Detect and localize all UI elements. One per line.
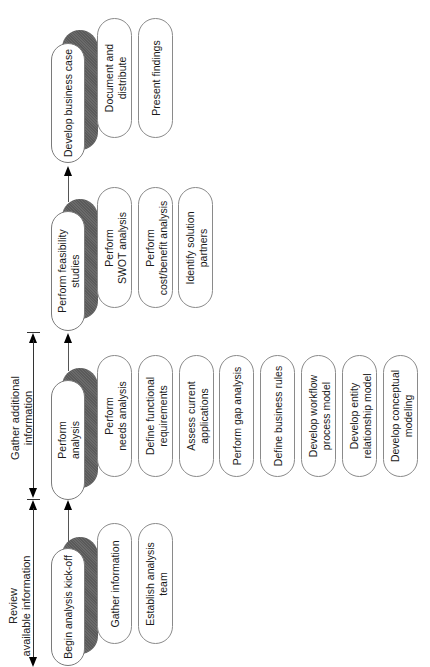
task-perform-cost-benefit-analysis[interactable]: Perform cost/benefit analysis (138, 187, 173, 308)
task-define-business-rules[interactable]: Define business rules (260, 355, 295, 477)
task-label: Develop entity relationship model (347, 373, 372, 458)
flow-line-kickoff-to-analysis (68, 508, 69, 542)
phase-node[interactable]: Perform analysis (51, 380, 85, 500)
span-label: Gather additional information (9, 376, 35, 460)
task-perform-swot-analysis[interactable]: Perform SWOT analysis (97, 187, 132, 308)
phase-node[interactable]: Perform feasibility studies (51, 211, 85, 331)
flow-line-feasibility-to-business-case (68, 174, 69, 202)
task-label: Perform needs analysis (102, 381, 127, 450)
task-label: Document and distribute (102, 44, 127, 112)
flow-arrow-icon (64, 500, 72, 510)
task-label: Assess current applications (184, 381, 209, 450)
arrow-down-icon (29, 488, 37, 498)
task-develop-conceptual-modeling[interactable]: Develop conceptual modeling (383, 355, 418, 477)
task-perform-gap-analysis[interactable]: Perform gap analysis (219, 355, 254, 477)
task-gather-information[interactable]: Gather information (97, 523, 132, 644)
flow-arrow-icon (64, 166, 72, 176)
task-document-and-distribute[interactable]: Document and distribute (97, 18, 132, 138)
task-label: Present findings (149, 40, 162, 115)
task-label: Develop conceptual modeling (388, 370, 413, 462)
task-identify-solution-partners[interactable]: Identify solution partners (178, 187, 213, 308)
task-label: Perform gap analysis (230, 367, 243, 466)
task-perform-needs-analysis[interactable]: Perform needs analysis (97, 355, 132, 477)
phase-label: Perform feasibility studies (56, 229, 81, 312)
flow-line-analysis-to-feasibility (68, 341, 69, 371)
task-label: Establish analysis team (143, 542, 168, 625)
task-label: Define functional requirements (143, 377, 168, 455)
phase-label: Perform analysis (56, 421, 81, 459)
task-develop-entity-relationship-model[interactable]: Develop entity relationship model (342, 355, 377, 477)
span-label: Review available information (7, 556, 33, 657)
task-assess-current-applications[interactable]: Assess current applications (179, 355, 214, 477)
task-label: Identify solution partners (183, 211, 208, 284)
phase-label: Begin analysis kick-off (62, 555, 75, 659)
task-present-findings[interactable]: Present findings (138, 18, 173, 138)
task-develop-workflow-process-model[interactable]: Develop workflow process model (301, 355, 336, 477)
task-establish-analysis-team[interactable]: Establish analysis team (138, 523, 173, 644)
task-label: Define business rules (271, 366, 284, 466)
task-label: Perform SWOT analysis (102, 211, 127, 283)
span-line (33, 508, 34, 658)
task-label: Gather information (108, 540, 121, 627)
phase-node[interactable]: Begin analysis kick-off (51, 548, 85, 666)
task-label: Develop workflow process model (306, 375, 331, 457)
phase-label: Develop business case (62, 49, 75, 157)
task-label: Perform cost/benefit analysis (143, 200, 168, 295)
arrow-down-icon (29, 657, 37, 667)
flow-arrow-icon (64, 333, 72, 343)
task-define-functional-requirements[interactable]: Define functional requirements (138, 355, 173, 477)
phase-node[interactable]: Develop business case (51, 43, 85, 163)
